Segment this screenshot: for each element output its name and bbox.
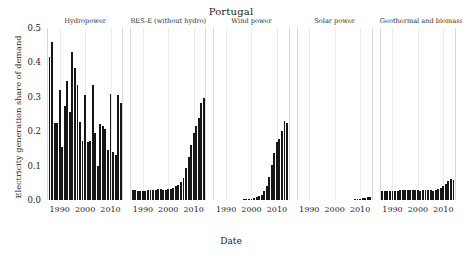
x-axis-tick: 1990 (50, 205, 70, 214)
bar (203, 98, 205, 200)
facet-panel: Solar power199020002010 (297, 28, 373, 200)
x-axis-tick: 2000 (158, 205, 178, 214)
x-axis-ticks: 199020002010 (297, 200, 373, 218)
x-axis-tick: 2000 (75, 205, 95, 214)
plot-area: Hydropower199020002010RES-E (without hyd… (47, 28, 456, 200)
x-axis-tick: 2000 (408, 205, 428, 214)
panel-title: Hydropower (47, 17, 123, 25)
bar-series (380, 28, 456, 200)
bar (120, 103, 122, 200)
x-axis-tick: 2000 (325, 205, 345, 214)
bar-series (297, 28, 373, 200)
y-axis-ticks: 0.00.10.20.30.40.5 (0, 28, 45, 200)
bar-series (130, 28, 206, 200)
facet-panel: RES-E (without hydro)199020002010 (130, 28, 206, 200)
facet-panel: Hydropower199020002010 (47, 28, 123, 200)
x-axis-tick: 2010 (100, 205, 120, 214)
y-axis-tick: 0.5 (27, 23, 41, 33)
x-axis-tick: 2010 (184, 205, 204, 214)
y-axis-tick: 0.1 (27, 161, 41, 171)
y-axis-tick: 0.2 (27, 126, 41, 136)
x-axis-tick: 2010 (267, 205, 287, 214)
x-axis-ticks: 199020002010 (213, 200, 289, 218)
chart-figure: Portugal Electricity generation share of… (0, 0, 462, 256)
chart-title: Portugal (0, 6, 462, 17)
panel-title: Solar power (297, 17, 373, 25)
y-axis-tick: 0.3 (27, 92, 41, 102)
facet-panel: Geothermal and biomass199020002010 (380, 28, 456, 200)
x-axis-ticks: 199020002010 (380, 200, 456, 218)
x-axis-label: Date (0, 236, 462, 246)
x-axis-tick: 1990 (299, 205, 319, 214)
bar (286, 123, 288, 200)
x-axis-tick: 1990 (216, 205, 236, 214)
panel-title: Geothermal and biomass (380, 17, 456, 25)
x-axis-ticks: 199020002010 (47, 200, 123, 218)
x-axis-tick: 2000 (241, 205, 261, 214)
panel-title: RES-E (without hydro) (130, 17, 206, 25)
x-axis-tick: 1990 (133, 205, 153, 214)
x-axis-tick: 2010 (433, 205, 453, 214)
bar-series (213, 28, 289, 200)
x-axis-ticks: 199020002010 (130, 200, 206, 218)
panel-title: Wind power (213, 17, 289, 25)
facet-panel: Wind power199020002010 (213, 28, 289, 200)
y-axis-tick: 0.4 (27, 57, 41, 67)
bar-series (47, 28, 123, 200)
x-axis-tick: 2010 (350, 205, 370, 214)
y-axis-tick: 0.0 (27, 195, 41, 205)
x-axis-tick: 1990 (382, 205, 402, 214)
bar (453, 180, 455, 200)
